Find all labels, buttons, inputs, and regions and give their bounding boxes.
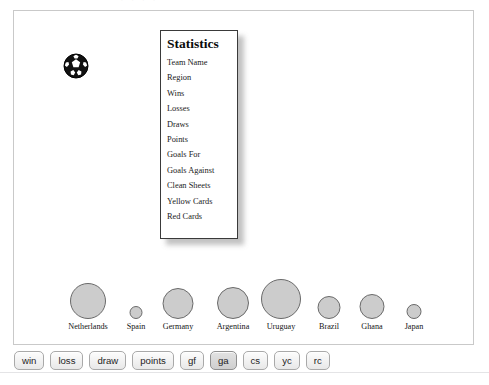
- stat-item-losses: Losses: [167, 101, 237, 116]
- stat-item-clean-sheets: Clean Sheets: [167, 178, 237, 193]
- stat-item-team-name: Team Name: [167, 55, 237, 70]
- bubble-circle[interactable]: [318, 296, 341, 319]
- stat-item-yellow-cards: Yellow Cards: [167, 194, 237, 209]
- stat-item-red-cards: Red Cards: [167, 209, 237, 224]
- stat-item-goals-against: Goals Against: [167, 163, 237, 178]
- bubble-label: Germany: [148, 321, 208, 333]
- statistics-panel-title: Statistics: [167, 35, 237, 52]
- bubble-circle[interactable]: [70, 283, 106, 319]
- team-bubble-germany[interactable]: Germany: [148, 275, 208, 333]
- bubble-marker: [384, 275, 444, 319]
- bubble-marker: [148, 275, 208, 319]
- clipped-header-strip: · · · ·: [0, 0, 489, 9]
- stat-button-gf[interactable]: gf: [180, 351, 204, 370]
- stat-button-yc[interactable]: yc: [274, 351, 300, 370]
- bubble-circle[interactable]: [130, 306, 143, 319]
- stat-item-region: Region: [167, 70, 237, 85]
- stat-button-loss[interactable]: loss: [50, 351, 83, 370]
- stat-button-win[interactable]: win: [14, 351, 44, 370]
- bubble-circle[interactable]: [407, 304, 422, 319]
- stat-button-draw[interactable]: draw: [89, 351, 126, 370]
- stat-button-ga[interactable]: ga: [210, 351, 237, 370]
- stat-selector-toolbar[interactable]: winlossdrawpointsgfgacsycrc: [14, 351, 330, 370]
- bubble-circle[interactable]: [360, 294, 385, 319]
- stat-button-points[interactable]: points: [132, 351, 174, 370]
- bubble-circle[interactable]: [217, 287, 249, 319]
- stat-button-cs[interactable]: cs: [243, 351, 269, 370]
- clipped-header-text: · · · ·: [120, 0, 158, 5]
- stat-button-rc[interactable]: rc: [306, 351, 330, 370]
- content-divider: [0, 372, 489, 373]
- visualization-canvas: Statistics Team Name Region Wins Losses …: [13, 10, 474, 345]
- statistics-panel: Statistics Team Name Region Wins Losses …: [160, 30, 238, 239]
- stat-item-wins: Wins: [167, 86, 237, 101]
- stat-item-points: Points: [167, 132, 237, 147]
- bubble-circle[interactable]: [261, 279, 301, 319]
- team-bubble-chart: NetherlandsSpainGermanyArgentinaUruguayB…: [28, 273, 468, 333]
- stat-item-draws: Draws: [167, 117, 237, 132]
- bubble-label: Japan: [384, 321, 444, 333]
- bubble-circle[interactable]: [163, 288, 194, 319]
- stat-item-goals-for: Goals For: [167, 147, 237, 162]
- team-bubble-japan[interactable]: Japan: [384, 275, 444, 333]
- soccer-ball-icon: [63, 53, 89, 79]
